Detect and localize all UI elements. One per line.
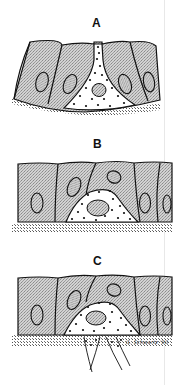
panel-a-illustration <box>0 0 188 130</box>
histology-figure: A <box>0 0 188 385</box>
panel-c-illustration <box>0 268 188 383</box>
panel-b-illustration <box>0 150 188 260</box>
panel-label-b: B <box>93 138 102 150</box>
panel-label-c: C <box>93 255 102 267</box>
artist-signature: G. Schwartz '90 <box>126 339 168 345</box>
